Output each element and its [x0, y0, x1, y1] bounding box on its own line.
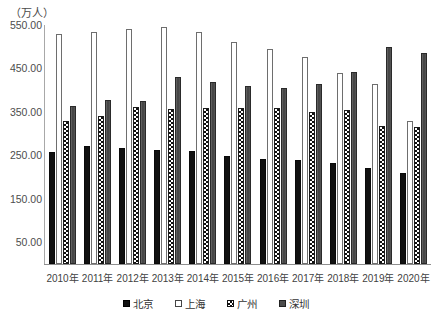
- bar-beijing: [119, 148, 125, 264]
- x-axis-tick-label: 2012年: [117, 270, 149, 285]
- x-axis-tick-label: 2018年: [327, 270, 359, 285]
- x-axis-tick-label: 2011年: [82, 270, 114, 285]
- legend-item-beijing[interactable]: 北京: [123, 296, 153, 311]
- bar-shanghai: [56, 34, 62, 264]
- legend-item-shanghai[interactable]: 上海: [175, 296, 205, 311]
- bar-guangzhou: [63, 121, 69, 264]
- bar-group: [396, 25, 431, 264]
- bar-shenzhen: [210, 82, 216, 265]
- bar-guangzhou: [133, 107, 139, 264]
- bar-group: [45, 25, 80, 264]
- chart-legend: 北京上海广州深圳: [0, 296, 432, 311]
- bar-beijing: [400, 173, 406, 264]
- bar-guangzhou: [238, 108, 244, 264]
- x-axis-tick-label: 2020年: [397, 270, 429, 285]
- bar-group: [185, 25, 220, 264]
- bar-shanghai: [231, 42, 237, 264]
- bar-guangzhou: [274, 108, 280, 264]
- bar-shanghai: [372, 84, 378, 264]
- bar-shenzhen: [245, 86, 251, 264]
- bar-beijing: [154, 150, 160, 264]
- x-axis-line: [44, 264, 431, 265]
- y-axis-tick-label: 50.00: [2, 236, 42, 248]
- bar-shanghai: [407, 121, 413, 264]
- bar-group: [256, 25, 291, 264]
- x-axis-tick-label: 2010年: [46, 270, 78, 285]
- bar-group: [80, 25, 115, 264]
- y-axis-tick-label: 150.00: [2, 193, 42, 205]
- bar-guangzhou: [344, 110, 350, 264]
- bar-shenzhen: [386, 47, 392, 264]
- y-axis-tick-label: 450.00: [2, 62, 42, 74]
- bar-shenzhen: [140, 101, 146, 264]
- bar-beijing: [189, 151, 195, 264]
- bar-beijing: [224, 156, 230, 264]
- bar-shenzhen: [421, 53, 427, 264]
- bar-shanghai: [267, 49, 273, 264]
- bar-group: [291, 25, 326, 264]
- plot-area: [45, 25, 431, 264]
- bar-shanghai: [196, 32, 202, 264]
- bar-shenzhen: [175, 77, 181, 264]
- legend-swatch-beijing-icon: [123, 300, 130, 307]
- bar-group: [115, 25, 150, 264]
- y-axis-tick-label: 250.00: [2, 149, 42, 161]
- bar-group: [220, 25, 255, 264]
- legend-label: 广州: [237, 296, 257, 311]
- legend-swatch-shenzhen-icon: [279, 300, 286, 307]
- legend-swatch-shanghai-icon: [175, 300, 182, 307]
- legend-item-shenzhen[interactable]: 深圳: [279, 296, 309, 311]
- bar-shenzhen: [281, 88, 287, 264]
- y-axis-tick-label: 550.00: [2, 19, 42, 31]
- x-axis-tick-label: 2016年: [257, 270, 289, 285]
- bar-group: [326, 25, 361, 264]
- legend-label: 深圳: [289, 296, 309, 311]
- bar-beijing: [330, 163, 336, 264]
- bar-shanghai: [91, 32, 97, 264]
- bar-guangzhou: [309, 112, 315, 264]
- bar-beijing: [295, 160, 301, 264]
- bar-guangzhou: [414, 127, 420, 264]
- y-axis-tick-label: 350.00: [2, 106, 42, 118]
- legend-swatch-guangzhou-icon: [227, 300, 234, 307]
- bar-beijing: [260, 159, 266, 264]
- legend-item-guangzhou[interactable]: 广州: [227, 296, 257, 311]
- bar-beijing: [365, 168, 371, 264]
- bar-shanghai: [126, 29, 132, 264]
- bar-guangzhou: [168, 109, 174, 264]
- bar-chart: （万人） 50.00150.00250.00350.00450.00550.00…: [0, 0, 432, 321]
- bar-beijing: [84, 146, 90, 264]
- bar-beijing: [49, 152, 55, 264]
- x-axis-tick-label: 2014年: [187, 270, 219, 285]
- bar-shenzhen: [351, 72, 357, 265]
- bar-shanghai: [302, 57, 308, 264]
- legend-label: 上海: [185, 296, 205, 311]
- bar-group: [361, 25, 396, 264]
- bar-shanghai: [161, 27, 167, 264]
- bar-shenzhen: [70, 106, 76, 264]
- bar-guangzhou: [379, 126, 385, 264]
- bar-guangzhou: [98, 116, 104, 264]
- bar-guangzhou: [203, 108, 209, 264]
- bar-shanghai: [337, 73, 343, 264]
- x-axis-tick-label: 2017年: [292, 270, 324, 285]
- legend-label: 北京: [133, 296, 153, 311]
- bar-shenzhen: [316, 84, 322, 264]
- x-axis-tick-label: 2019年: [362, 270, 394, 285]
- x-axis-tick-label: 2015年: [222, 270, 254, 285]
- x-axis-tick-label: 2013年: [152, 270, 184, 285]
- bar-group: [150, 25, 185, 264]
- y-axis-tick-labels: 50.00150.00250.00350.00450.00550.00: [0, 0, 42, 321]
- bar-shenzhen: [105, 100, 111, 264]
